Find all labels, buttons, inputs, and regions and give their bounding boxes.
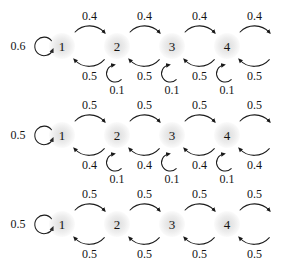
forward-arc-2-row2 xyxy=(130,115,159,122)
backward-arc-4-row1 xyxy=(240,60,270,67)
backward-weight-1-row3: 0.5 xyxy=(82,248,97,260)
forward-weight-3-row2: 0.5 xyxy=(192,99,207,111)
forward-weight-1-row2: 0.5 xyxy=(82,99,97,111)
backward-arc-1-row1 xyxy=(75,60,105,67)
node-label-2-row3: 2 xyxy=(114,218,121,231)
forward-arc-4-row3 xyxy=(240,204,269,211)
backward-arc-4-row3 xyxy=(240,238,270,245)
self-loop-bottom-weight-2-row2: 0.1 xyxy=(165,173,180,185)
self-loop-arc-bottom-1-row2 xyxy=(107,154,122,171)
node-label-4-row2: 4 xyxy=(224,129,231,142)
forward-arc-1-row2 xyxy=(75,115,104,122)
self-loop-arc-left-row1 xyxy=(35,37,53,56)
backward-weight-1-row1: 0.5 xyxy=(82,70,97,82)
backward-weight-2-row2: 0.4 xyxy=(137,159,152,171)
forward-arc-4-row2 xyxy=(240,115,269,122)
forward-arc-3-row1 xyxy=(185,26,214,33)
self-loop-left-weight-row1: 0.6 xyxy=(11,40,26,52)
forward-weight-4-row1: 0.4 xyxy=(247,10,262,22)
backward-arc-2-row3 xyxy=(130,238,160,245)
forward-weight-4-row2: 0.5 xyxy=(247,99,262,111)
backward-arc-1-row3 xyxy=(75,238,105,245)
forward-weight-3-row3: 0.5 xyxy=(192,188,207,200)
forward-arc-1-row3 xyxy=(75,204,104,211)
node-label-3-row1: 3 xyxy=(169,40,176,53)
forward-arc-3-row2 xyxy=(185,115,214,122)
backward-weight-4-row1: 0.5 xyxy=(247,70,262,82)
node-label-3-row3: 3 xyxy=(169,218,176,231)
backward-arc-1-row2 xyxy=(75,149,105,156)
forward-weight-2-row3: 0.5 xyxy=(137,188,152,200)
backward-weight-3-row1: 0.5 xyxy=(192,70,207,82)
forward-arc-1-row1 xyxy=(75,26,104,33)
node-label-1-row2: 1 xyxy=(59,129,66,142)
forward-weight-1-row3: 0.5 xyxy=(82,188,97,200)
forward-weight-3-row1: 0.4 xyxy=(192,10,207,22)
self-loop-bottom-weight-1-row2: 0.1 xyxy=(110,173,125,185)
self-loop-bottom-weight-2-row1: 0.1 xyxy=(165,84,180,96)
self-loop-bottom-weight-1-row1: 0.1 xyxy=(110,84,125,96)
backward-weight-1-row2: 0.4 xyxy=(82,159,97,171)
self-loop-bottom-weight-3-row1: 0.1 xyxy=(220,84,235,96)
self-loop-left-weight-row2: 0.5 xyxy=(11,129,26,141)
self-loop-arc-bottom-1-row1 xyxy=(107,65,122,82)
backward-arc-3-row2 xyxy=(185,149,215,156)
self-loop-arc-bottom-2-row1 xyxy=(162,65,177,82)
node-label-1-row1: 1 xyxy=(59,40,66,53)
forward-arc-3-row3 xyxy=(185,204,214,211)
backward-arc-3-row1 xyxy=(185,60,215,67)
forward-weight-4-row3: 0.5 xyxy=(247,188,262,200)
forward-arc-2-row3 xyxy=(130,204,159,211)
forward-arc-4-row1 xyxy=(240,26,269,33)
backward-arc-3-row3 xyxy=(185,238,215,245)
self-loop-arc-bottom-3-row1 xyxy=(217,65,232,82)
node-label-3-row2: 3 xyxy=(169,129,176,142)
forward-arc-2-row1 xyxy=(130,26,159,33)
backward-arc-4-row2 xyxy=(240,149,270,156)
node-label-2-row1: 2 xyxy=(114,40,121,53)
backward-arc-2-row2 xyxy=(130,149,160,156)
self-loop-left-weight-row3: 0.5 xyxy=(11,218,26,230)
node-label-4-row3: 4 xyxy=(224,218,231,231)
backward-weight-3-row3: 0.5 xyxy=(192,248,207,260)
forward-weight-1-row1: 0.4 xyxy=(82,10,97,22)
backward-weight-4-row2: 0.4 xyxy=(247,159,262,171)
node-label-2-row2: 2 xyxy=(114,129,121,142)
backward-weight-3-row2: 0.4 xyxy=(192,159,207,171)
backward-weight-2-row1: 0.5 xyxy=(137,70,152,82)
backward-arc-2-row1 xyxy=(130,60,160,67)
self-loop-arc-bottom-2-row2 xyxy=(162,154,177,171)
diagram-graphics xyxy=(0,0,287,272)
forward-weight-2-row1: 0.4 xyxy=(137,10,152,22)
backward-weight-2-row3: 0.5 xyxy=(137,248,152,260)
self-loop-arc-left-row2 xyxy=(35,126,53,145)
diagram-canvas: 0.60.40.50.40.50.40.50.40.50.10.10.11234… xyxy=(0,0,287,272)
self-loop-bottom-weight-3-row2: 0.1 xyxy=(220,173,235,185)
self-loop-arc-left-row3 xyxy=(35,215,53,234)
self-loop-arc-bottom-3-row2 xyxy=(217,154,232,171)
node-label-4-row1: 4 xyxy=(224,40,231,53)
forward-weight-2-row2: 0.5 xyxy=(137,99,152,111)
node-label-1-row3: 1 xyxy=(59,218,66,231)
backward-weight-4-row3: 0.5 xyxy=(247,248,262,260)
